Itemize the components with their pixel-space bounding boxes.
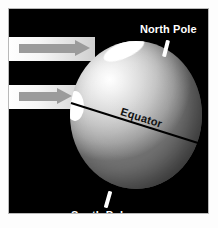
arrow-shaft xyxy=(19,44,77,53)
diagram-figure: Equator North Pole South Pole xyxy=(0,0,218,228)
south-pole-leader-line xyxy=(104,191,113,208)
south-pole-label: South Pole xyxy=(71,209,129,213)
arrow-head xyxy=(75,40,90,56)
diagram-canvas: Equator North Pole South Pole xyxy=(9,9,208,213)
north-pole-label: North Pole xyxy=(140,23,197,35)
arrow-shaft xyxy=(19,92,59,101)
